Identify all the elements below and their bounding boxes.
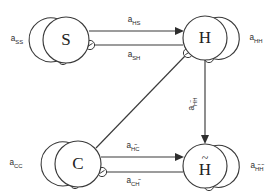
label-a-ss-sub: SS [15, 38, 23, 44]
label-a-htht: aHH ~ ~ [250, 161, 264, 171]
label-a-hs-sub: HS [132, 19, 140, 25]
edge-h-to-httilde [201, 60, 209, 144]
arrowhead-s-h [175, 27, 184, 35]
arrowhead-c-httilde [175, 153, 184, 161]
node-c[interactable]: C [55, 141, 101, 187]
edge-line-h-c [96, 56, 185, 148]
label-a-cht: aCH ~ [126, 176, 141, 186]
node-label-h: H [199, 28, 211, 47]
label-a-hth-tilde: ~ [187, 100, 193, 103]
node-s[interactable]: S [43, 17, 89, 63]
label-a-htht-tilde1: ~ [258, 161, 261, 167]
edge-h-to-s [85, 40, 183, 49]
label-a-sh: aSH [128, 50, 141, 60]
edge-s-to-h [89, 27, 184, 35]
label-a-hth: aHH ~ [187, 97, 197, 110]
edge-c-to-httilde [101, 153, 184, 161]
label-a-ss-text: aSS [11, 34, 23, 44]
label-a-htc: aHC ~ [126, 141, 140, 151]
label-a-cc-text: aCC [9, 158, 23, 168]
edge-h-to-c [96, 48, 193, 148]
label-a-cht-tilde: ~ [138, 176, 141, 182]
label-a-hh-text: aHH [249, 33, 262, 43]
node-label-s: S [61, 30, 70, 49]
label-a-cc: aCC [9, 158, 23, 168]
node-h[interactable]: H [183, 16, 227, 60]
node-label-c: C [72, 154, 83, 173]
node-htilde[interactable]: ~ H [183, 144, 227, 188]
label-a-htc-tilde: ~ [134, 141, 137, 147]
label-a-htht-tilde2: ~ [261, 161, 264, 167]
network-canvas: S H C ~ H aSS aHH [0, 0, 280, 195]
node-label-htilde: H [199, 160, 211, 179]
label-a-hh-sub: HH [254, 37, 263, 43]
label-a-hh: aHH [249, 33, 262, 43]
network-diagram: S H C ~ H aSS aHH [0, 0, 280, 195]
label-a-hs: aHS [128, 15, 141, 25]
label-a-sh-sub: SH [132, 54, 140, 60]
label-a-sh-text: aSH [128, 50, 141, 60]
label-a-ss: aSS [11, 34, 23, 44]
label-a-cc-sub: CC [14, 162, 23, 168]
label-a-hth-text: aHH [187, 97, 197, 110]
arrowhead-h-httilde [201, 135, 209, 144]
label-a-hs-text: aHS [128, 15, 141, 25]
